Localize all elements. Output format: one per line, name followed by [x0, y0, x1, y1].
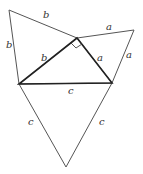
diagram-canvas: b a b b a a c c c [0, 0, 143, 174]
label-c-left: c [28, 116, 34, 127]
label-c-right: c [99, 116, 105, 127]
geometry-figure: b a b b a a c c c [0, 0, 143, 174]
label-a-inner: a [97, 52, 103, 63]
label-a-right: a [126, 49, 132, 60]
label-a-top: a [106, 21, 112, 32]
label-c-base: c [68, 85, 74, 96]
label-b-left: b [6, 39, 12, 50]
right-angle-marker [71, 43, 82, 48]
label-b-inner: b [41, 52, 47, 63]
label-b-top: b [43, 9, 49, 20]
